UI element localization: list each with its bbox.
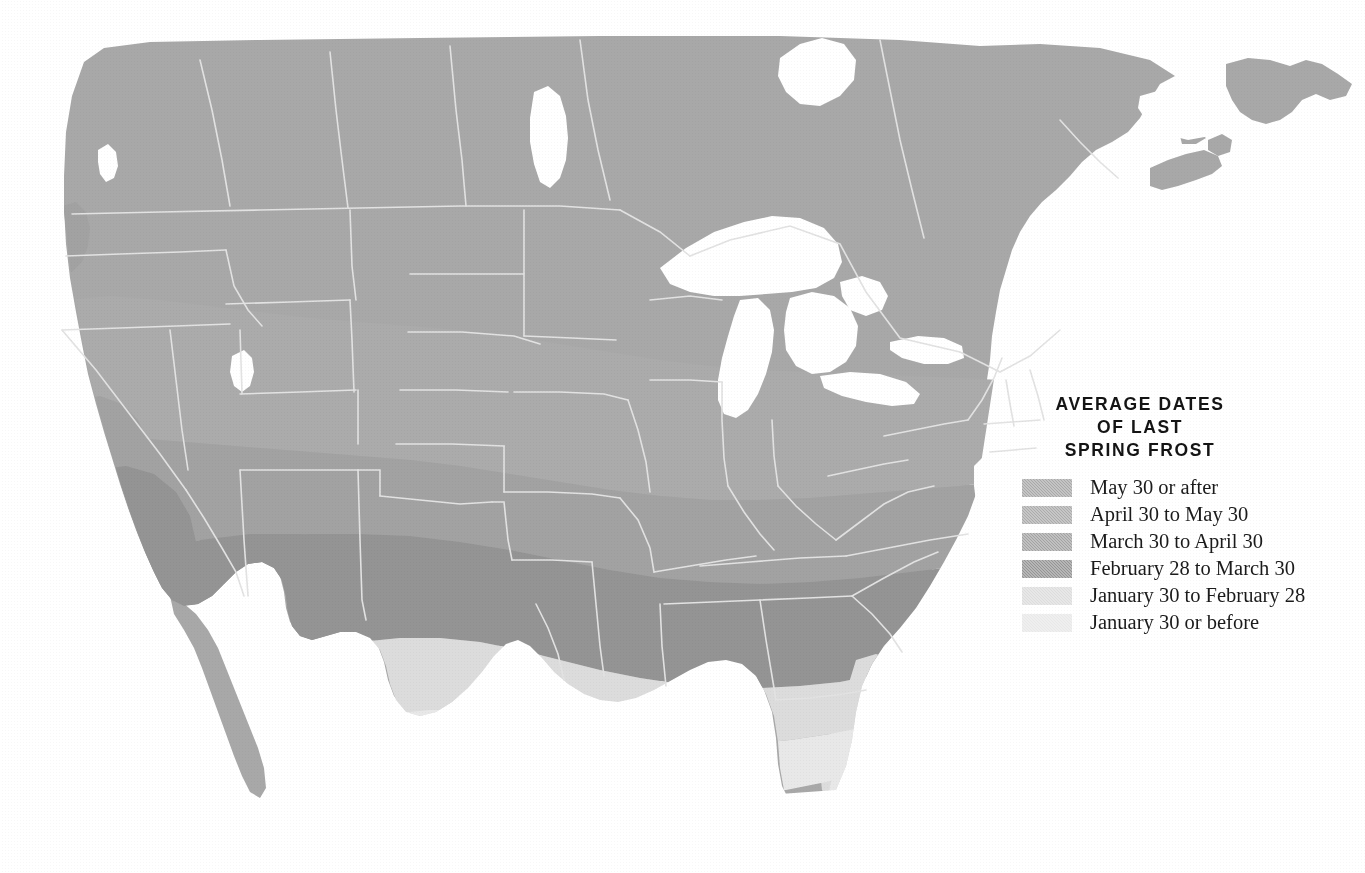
legend-title-line-1: Average Dates <box>1014 393 1266 416</box>
legend-row: January 30 to February 28 <box>1008 582 1308 609</box>
map-legend: Average Dates of Last Spring Frost May 3… <box>1008 393 1308 636</box>
legend-label-zone4: February 28 to March 30 <box>1090 558 1295 579</box>
legend-label-zone5: January 30 to February 28 <box>1090 585 1305 606</box>
legend-title-line-2: of Last <box>1014 416 1266 439</box>
legend-swatch-zone4 <box>1022 560 1072 578</box>
legend-label-zone2: April 30 to May 30 <box>1090 504 1248 525</box>
legend-row: May 30 or after <box>1008 474 1308 501</box>
legend-title-line-3: Spring Frost <box>1014 439 1266 462</box>
legend-title: Average Dates of Last Spring Frost <box>1014 393 1266 462</box>
legend-row: February 28 to March 30 <box>1008 555 1308 582</box>
legend-swatch-zone1 <box>1022 479 1072 497</box>
legend-swatch-zone3 <box>1022 533 1072 551</box>
legend-swatch-zone2 <box>1022 506 1072 524</box>
legend-row: January 30 or before <box>1008 609 1308 636</box>
legend-row: March 30 to April 30 <box>1008 528 1308 555</box>
legend-label-zone3: March 30 to April 30 <box>1090 531 1263 552</box>
legend-label-zone6: January 30 or before <box>1090 612 1259 633</box>
legend-swatch-zone6 <box>1022 614 1072 632</box>
legend-entries: May 30 or after April 30 to May 30 March… <box>1008 474 1308 636</box>
frost-map-page: Average Dates of Last Spring Frost May 3… <box>0 0 1365 873</box>
legend-label-zone1: May 30 or after <box>1090 477 1218 498</box>
legend-swatch-zone5 <box>1022 587 1072 605</box>
legend-row: April 30 to May 30 <box>1008 501 1308 528</box>
